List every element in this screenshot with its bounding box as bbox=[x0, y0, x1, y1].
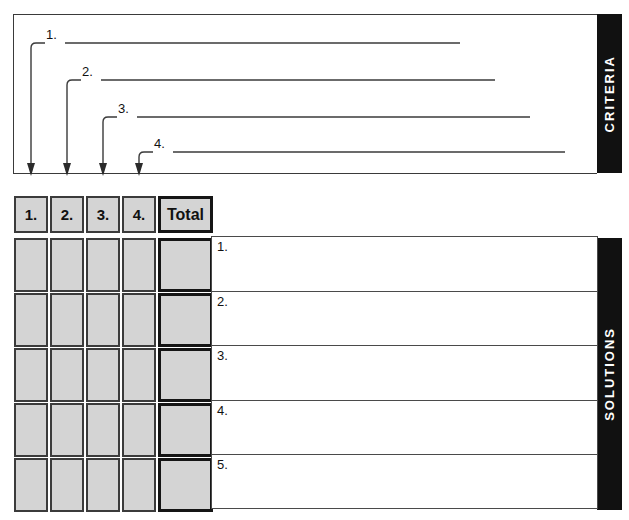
grid-column-header-2: 2. bbox=[50, 196, 84, 233]
score-cell-r2-c2[interactable] bbox=[50, 293, 84, 347]
score-cell-r3-c3[interactable] bbox=[86, 348, 120, 402]
criteria-number-2: 2. bbox=[82, 64, 93, 79]
solution-row-5[interactable]: 5. bbox=[211, 454, 598, 509]
grid-column-header-4: 4. bbox=[122, 196, 156, 233]
solution-row-1[interactable]: 1. bbox=[211, 236, 598, 291]
solution-number-2: 2. bbox=[217, 294, 228, 309]
score-cell-r3-c2[interactable] bbox=[50, 348, 84, 402]
solution-row-2[interactable]: 2. bbox=[211, 291, 598, 346]
score-cell-r1-c2[interactable] bbox=[50, 238, 84, 292]
score-cell-r4-c4[interactable] bbox=[122, 403, 156, 457]
scoring-grid: 1.2.3.4.Total bbox=[13, 196, 213, 509]
solution-row-4[interactable]: 4. bbox=[211, 400, 598, 455]
solution-number-3: 3. bbox=[217, 348, 228, 363]
grid-column-header-3: 3. bbox=[86, 196, 120, 233]
criteria-region bbox=[13, 14, 597, 174]
solutions-vertical-label: SOLUTIONS bbox=[597, 238, 622, 510]
solutions-bar-text: SOLUTIONS bbox=[602, 327, 617, 421]
score-cell-r4-c1[interactable] bbox=[14, 403, 48, 457]
grid-column-header-1: 1. bbox=[14, 196, 48, 233]
total-cell-r1[interactable] bbox=[158, 238, 213, 292]
score-cell-r5-c3[interactable] bbox=[86, 458, 120, 512]
score-cell-r3-c1[interactable] bbox=[14, 348, 48, 402]
solution-row-3[interactable]: 3. bbox=[211, 345, 598, 400]
total-cell-r4[interactable] bbox=[158, 403, 213, 457]
score-cell-r2-c3[interactable] bbox=[86, 293, 120, 347]
score-cell-r5-c1[interactable] bbox=[14, 458, 48, 512]
worksheet-canvas: 1.2.3.4. CRITERIA SOLUTIONS 1.2.3.4.Tota… bbox=[0, 0, 629, 520]
score-cell-r5-c2[interactable] bbox=[50, 458, 84, 512]
score-cell-r2-c1[interactable] bbox=[14, 293, 48, 347]
score-cell-r1-c3[interactable] bbox=[86, 238, 120, 292]
grid-total-header: Total bbox=[158, 196, 213, 233]
score-cell-r1-c4[interactable] bbox=[122, 238, 156, 292]
criteria-number-4: 4. bbox=[154, 136, 165, 151]
solution-number-4: 4. bbox=[217, 403, 228, 418]
score-cell-r4-c2[interactable] bbox=[50, 403, 84, 457]
criteria-bar-text: CRITERIA bbox=[602, 55, 617, 132]
total-cell-r3[interactable] bbox=[158, 348, 213, 402]
solution-number-5: 5. bbox=[217, 457, 228, 472]
score-cell-r5-c4[interactable] bbox=[122, 458, 156, 512]
score-cell-r2-c4[interactable] bbox=[122, 293, 156, 347]
solutions-list: 1.2.3.4.5. bbox=[211, 236, 598, 509]
criteria-number-3: 3. bbox=[118, 101, 129, 116]
total-cell-r5[interactable] bbox=[158, 458, 213, 512]
score-cell-r3-c4[interactable] bbox=[122, 348, 156, 402]
score-cell-r4-c3[interactable] bbox=[86, 403, 120, 457]
criteria-number-1: 1. bbox=[46, 27, 57, 42]
criteria-vertical-label: CRITERIA bbox=[597, 14, 622, 173]
solution-number-1: 1. bbox=[217, 239, 228, 254]
score-cell-r1-c1[interactable] bbox=[14, 238, 48, 292]
total-cell-r2[interactable] bbox=[158, 293, 213, 347]
